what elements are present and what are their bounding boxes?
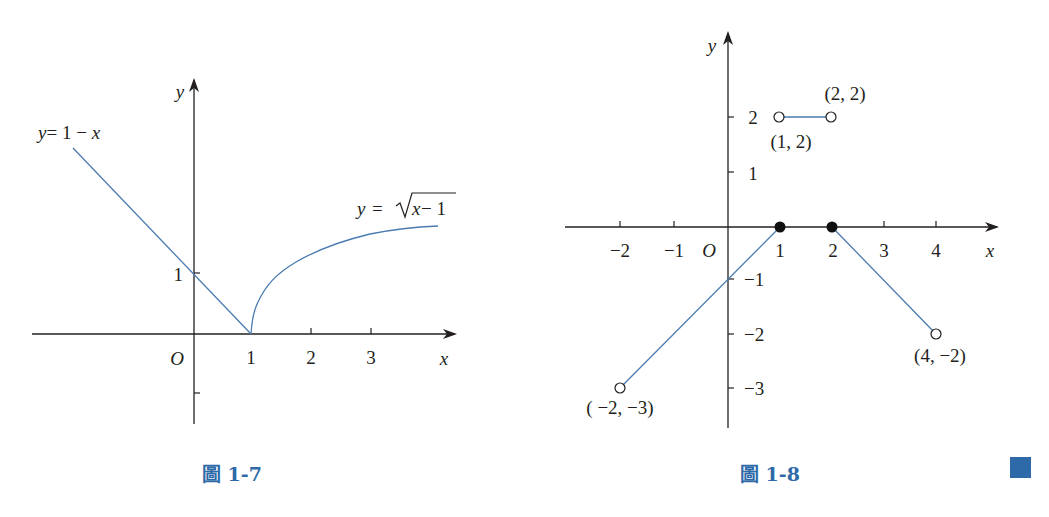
x-axis-label: x xyxy=(439,348,449,369)
y-tick-label-1: 1 xyxy=(748,163,758,184)
x-tick-label-3: 3 xyxy=(879,240,889,261)
segment-minus2-minus3-to-1-0 xyxy=(620,227,780,388)
open-point-4-minus2 xyxy=(931,329,941,339)
y-axis-label: y xyxy=(706,35,717,56)
open-point-1-2 xyxy=(774,112,784,122)
open-point-minus2-minus3 xyxy=(615,383,625,393)
origin-label: O xyxy=(702,240,716,261)
x-axis-label: x xyxy=(985,240,995,261)
caption-fig-1-8: 圖 1-8 xyxy=(740,463,800,485)
caption-fig-1-7: 圖 1-7 xyxy=(202,463,262,485)
x-tick-label-1: 1 xyxy=(775,240,785,261)
annotation-minus2-minus3: ( −2, −3) xyxy=(586,397,653,419)
x-tick-label-4: 4 xyxy=(931,240,941,261)
y-axis-label: y xyxy=(174,81,185,102)
x-tick-label-2: 2 xyxy=(828,240,838,261)
x-tick-label-minus-1: −1 xyxy=(664,240,684,261)
svg-text:=: = xyxy=(372,198,383,219)
open-point-2-2 xyxy=(826,112,836,122)
svg-text:x: x xyxy=(411,198,421,219)
chart-fig-1-8: −2 −1 1 2 3 4 O x y 2 1 −1 −2 −3 (2, 2) … xyxy=(565,33,997,485)
y-tick-label-minus-2: −2 xyxy=(744,324,764,345)
y-tick-label-minus-3: −3 xyxy=(744,378,764,399)
y-tick-label-minus-1: −1 xyxy=(744,269,764,290)
svg-text:− 1: − 1 xyxy=(421,198,446,219)
x-tick-label-minus-2: −2 xyxy=(610,240,630,261)
figure-canvas: 1 2 3 1 O x y y= 1 − x y = x − 1 圖 1-7 xyxy=(0,0,1049,517)
annotation-2-2: (2, 2) xyxy=(824,83,865,105)
annotation-1-2: (1, 2) xyxy=(770,131,811,153)
end-of-section-square-icon xyxy=(1010,457,1031,478)
y-tick-label-2: 2 xyxy=(748,107,758,128)
curve-sqrt-x-minus-1 xyxy=(251,226,438,334)
line-y-equals-1-minus-x xyxy=(73,148,251,334)
x-tick-label-1: 1 xyxy=(246,347,256,368)
annotation-4-minus2: (4, −2) xyxy=(914,345,966,367)
origin-label: O xyxy=(170,348,184,369)
filled-point-1-0 xyxy=(775,222,786,233)
chart-fig-1-7: 1 2 3 1 O x y y= 1 − x y = x − 1 圖 1-7 xyxy=(32,80,456,485)
x-tick-label-2: 2 xyxy=(306,347,316,368)
y-tick-label-1: 1 xyxy=(174,264,184,285)
filled-point-2-0 xyxy=(827,222,838,233)
svg-text:y: y xyxy=(355,198,366,219)
x-tick-label-3: 3 xyxy=(366,347,376,368)
label-y-equals-1-minus-x: y= 1 − x xyxy=(36,122,101,143)
label-y-equals-sqrt-x-minus-1: y = x − 1 xyxy=(355,193,456,219)
